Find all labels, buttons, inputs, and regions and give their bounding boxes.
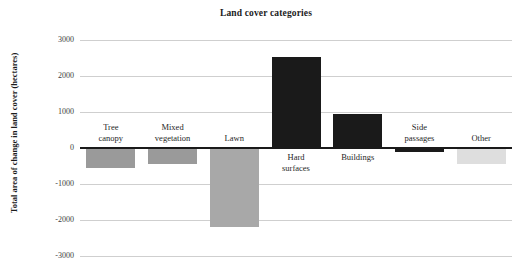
- category-label-lawn: Lawn: [203, 133, 265, 144]
- gridline-minus-2000: [80, 220, 512, 221]
- category-label-side-passages: Side passages: [388, 122, 450, 144]
- category-label-line1: Side: [388, 122, 450, 133]
- y-tick-label-minus-2000: -2000: [28, 216, 74, 224]
- category-label-line2: vegetation: [142, 133, 204, 144]
- y-tick-label-minus-1000: -1000: [28, 180, 74, 188]
- category-label-mixed-vegetation: Mixed vegetation: [142, 122, 204, 144]
- category-label-hard-surfaces: Hard surfaces: [265, 152, 327, 174]
- category-label-line1: Other: [450, 133, 512, 144]
- category-label-line1: Buildings: [327, 152, 389, 163]
- bar-tree-canopy[interactable]: [86, 148, 135, 168]
- y-tick-label-1000: 1000: [28, 108, 74, 116]
- category-label-line1: Hard: [265, 152, 327, 163]
- category-label-buildings: Buildings: [327, 152, 389, 163]
- category-label-tree-canopy: Tree canopy: [80, 122, 142, 144]
- y-tick-label-2000: 2000: [28, 72, 74, 80]
- y-tick-label-3000: 3000: [28, 36, 74, 44]
- gridline-3000: [80, 40, 512, 41]
- bar-chart-figure: Land cover categories Total area of chan…: [0, 0, 532, 276]
- gridline-minus-3000: [80, 256, 512, 257]
- bar-lawn[interactable]: [210, 148, 259, 227]
- y-axis-title: Total area of change in land cover (hect…: [9, 13, 19, 253]
- category-label-line1: Tree: [80, 122, 142, 133]
- bar-other[interactable]: [457, 148, 506, 164]
- bar-buildings[interactable]: [333, 114, 382, 148]
- plot-area: 3000 2000 1000 0 -1000 -2000 -3000 Tree …: [80, 40, 512, 256]
- category-label-other: Other: [450, 133, 512, 144]
- y-tick-label-0: 0: [28, 144, 74, 152]
- y-axis-title-wrapper: Total area of change in land cover (hect…: [2, 0, 20, 276]
- bar-mixed-vegetation[interactable]: [148, 148, 197, 164]
- zero-baseline: [80, 147, 512, 149]
- y-tick-label-minus-3000: -3000: [28, 252, 74, 260]
- category-label-line2: canopy: [80, 133, 142, 144]
- gridline-minus-1000: [80, 184, 512, 185]
- bar-hard-surfaces[interactable]: [272, 57, 321, 148]
- category-label-line2: surfaces: [265, 163, 327, 174]
- category-label-line1: Lawn: [203, 133, 265, 144]
- category-label-line2: passages: [388, 133, 450, 144]
- chart-title: Land cover categories: [0, 8, 532, 18]
- category-label-line1: Mixed: [142, 122, 204, 133]
